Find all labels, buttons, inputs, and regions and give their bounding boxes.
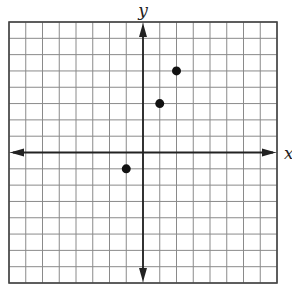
y-axis-label: y bbox=[137, 0, 148, 20]
y-axis-down-arrow-icon bbox=[139, 268, 147, 282]
x-axis-right-arrow-icon bbox=[262, 149, 276, 157]
axes bbox=[10, 23, 276, 282]
data-point bbox=[172, 66, 181, 75]
coordinate-plane: y x bbox=[0, 0, 292, 289]
data-point bbox=[122, 164, 131, 173]
x-axis-label: x bbox=[284, 143, 292, 163]
x-axis-left-arrow-icon bbox=[10, 149, 24, 157]
data-point bbox=[155, 99, 164, 108]
y-axis-up-arrow-icon bbox=[139, 23, 147, 37]
